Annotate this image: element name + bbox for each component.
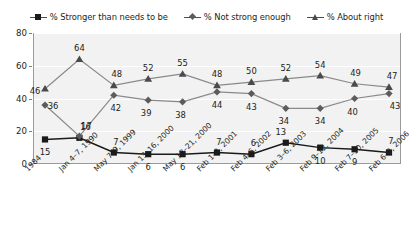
data-point-marker [282,105,289,112]
data-point-marker [179,70,187,77]
data-point-label: 46 [30,86,41,96]
data-point-label: 43 [390,101,401,111]
data-point-label: 42 [110,103,121,113]
data-point-label: 50 [246,66,257,76]
data-point-label: 52 [143,63,154,73]
data-point-label: 40 [347,107,358,117]
data-point-marker [145,97,152,104]
data-point-marker [179,98,186,105]
data-point-label: 34 [315,116,326,126]
data-point-label: 38 [175,110,186,120]
data-point-marker [213,88,220,95]
data-point-marker [316,72,324,79]
data-point-label: 44 [212,100,223,110]
data-point-marker [76,55,84,62]
data-point-label: 52 [280,63,291,73]
data-point-marker [351,95,358,102]
data-point-label: 64 [74,43,85,53]
data-point-label: 48 [111,69,122,79]
data-point-label: 13 [275,127,286,137]
data-point-marker [317,105,324,112]
data-point-label: 17 [81,121,92,131]
data-point-marker [42,136,48,142]
data-point-marker [248,90,255,97]
data-point-label: 47 [387,71,398,81]
line-chart: % Stronger than needs to be% Not strong … [0,0,413,248]
data-point-label: 43 [246,102,257,112]
x-axis-labels: 1984Jan 4–7, 1990May 7–9, 1999Jan 13–16,… [0,164,413,234]
data-point-label: 49 [350,68,361,78]
data-point-label: 54 [315,60,326,70]
data-point-label: 55 [177,58,188,68]
data-point-label: 34 [278,116,289,126]
data-point-label: 15 [40,147,51,157]
data-point-label: 48 [212,69,223,79]
data-point-label: 36 [48,101,59,111]
data-point-label: 39 [141,108,152,118]
data-point-marker [385,90,392,97]
